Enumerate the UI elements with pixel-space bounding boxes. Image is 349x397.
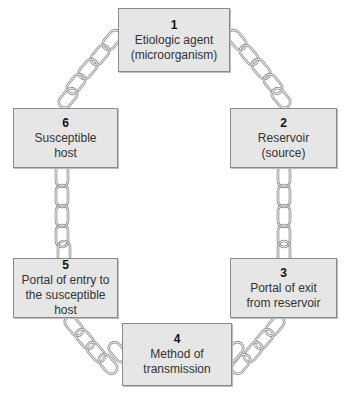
link-box-etiologic-agent: 1 Etiologic agent (microorganism)	[118, 8, 230, 72]
link-label: Method of transmission	[143, 347, 210, 377]
link-number: 2	[280, 116, 287, 131]
link-number: 4	[174, 332, 181, 347]
link-box-portal-of-exit: 3 Portal of exit from reservoir	[230, 258, 337, 318]
link-label: Susceptible host	[34, 131, 96, 161]
chain-6-5	[56, 165, 70, 263]
link-label: Etiologic agent (microorganism)	[131, 33, 218, 63]
chain-1-6	[56, 28, 123, 111]
link-label: Portal of entry to the susceptible host	[14, 273, 117, 318]
chain-2-3	[278, 165, 290, 263]
link-label: Portal of exit from reservoir	[246, 281, 320, 311]
link-number: 5	[62, 258, 69, 273]
chain-1-2	[225, 28, 292, 111]
link-label: Reservoir (source)	[258, 131, 309, 161]
link-box-reservoir: 2 Reservoir (source)	[230, 108, 337, 168]
link-number: 1	[171, 18, 178, 33]
link-number: 3	[280, 266, 287, 281]
link-box-susceptible-host: 6 Susceptible host	[13, 108, 118, 168]
link-box-method-of-transmission: 4 Method of transmission	[122, 323, 232, 386]
chain-5-4	[62, 314, 129, 377]
link-box-portal-of-entry: 5 Portal of entry to the susceptible hos…	[13, 258, 118, 318]
link-number: 6	[62, 116, 69, 131]
